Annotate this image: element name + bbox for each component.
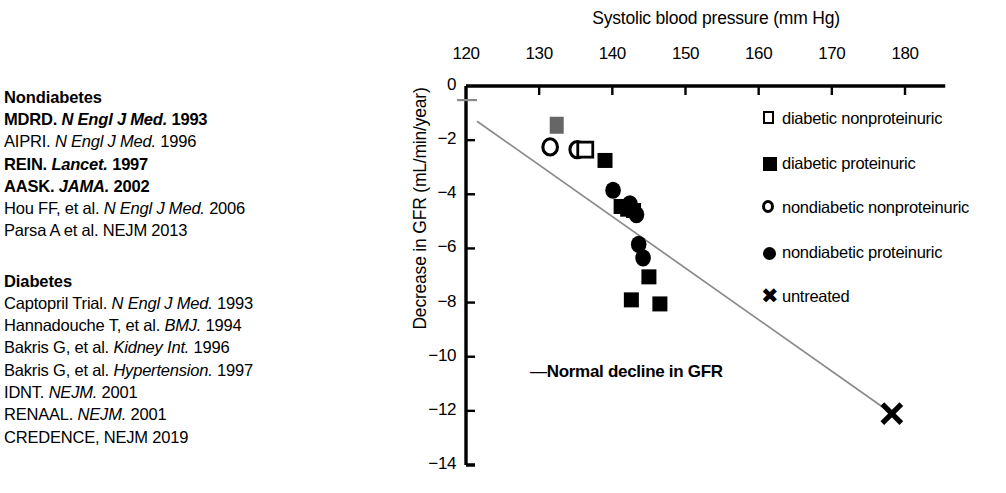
reference-entry: IDNT. NEJM. 2001	[4, 381, 376, 403]
data-point-filled-circle	[605, 182, 621, 199]
reference-entry: AASK. JAMA. 2002	[4, 175, 376, 197]
reference-entry-journal: N Engl J Med.	[104, 199, 205, 217]
reference-entry-journal: NEJM.	[49, 383, 98, 401]
reference-entry-name: AASK.	[4, 177, 59, 195]
reference-group: DiabetesCaptopril Trial. N Engl J Med. 1…	[4, 270, 376, 448]
legend-item[interactable]: ✖untreated	[760, 286, 1006, 331]
legend-marker-cross-icon: ✖	[760, 287, 782, 307]
reference-entry-name: AIPRI.	[4, 132, 55, 150]
reference-entry-name: Parsa A et al. NEJM 2013	[4, 221, 187, 239]
legend-marker-open-circle-icon	[760, 198, 782, 218]
data-point-open-square	[578, 142, 593, 157]
legend-item[interactable]: nondiabetic proteinuric	[760, 242, 1006, 287]
reference-entry-year: 2006	[205, 199, 245, 217]
reference-entry-year: 1997	[108, 155, 148, 173]
figure-root: NondiabetesMDRD. N Engl J Med. 1993AIPRI…	[0, 0, 1006, 493]
legend-label: untreated	[782, 286, 849, 306]
marker-glyph: ✖	[761, 288, 778, 305]
legend-marker-filled-square-icon	[760, 154, 782, 174]
chart-area: Systolic blood pressure (mm Hg) Decrease…	[376, 0, 1006, 493]
reference-entry: REIN. Lancet. 1997	[4, 153, 376, 175]
reference-group-heading: Diabetes	[4, 270, 376, 292]
reference-entry: RENAAL. NEJM. 2001	[4, 403, 376, 425]
data-point-filled-circle	[635, 249, 651, 266]
reference-entry-year: 2001	[97, 383, 137, 401]
reference-entry-journal: N Engl J Med.	[55, 132, 156, 150]
reference-entry-journal: N Engl J Med.	[61, 110, 167, 128]
data-point-open-circle	[543, 139, 558, 155]
legend-marker-filled-circle-icon	[760, 243, 782, 263]
legend-label: diabetic nonproteinuric	[782, 108, 942, 128]
data-point-filled-square	[641, 269, 656, 284]
marker-glyph	[763, 157, 777, 171]
reference-entry-year: 2001	[126, 405, 166, 423]
legend-label: diabetic proteinuric	[782, 153, 916, 173]
marker-glyph	[762, 200, 774, 213]
marker-glyph	[763, 111, 774, 124]
reference-entry-year: 2002	[109, 177, 149, 195]
data-point-filled-square	[598, 153, 613, 168]
reference-entry-name: MDRD.	[4, 110, 61, 128]
reference-entry-journal: Hypertension.	[113, 361, 212, 379]
reference-entry-name: Hou FF, et al.	[4, 199, 104, 217]
reference-entry-year: 1993	[167, 110, 207, 128]
reference-entry-journal: NEJM.	[78, 405, 127, 423]
reference-panel: NondiabetesMDRD. N Engl J Med. 1993AIPRI…	[4, 86, 376, 452]
legend-item[interactable]: diabetic nonproteinuric	[760, 108, 1006, 153]
reference-entry: Bakris G, et al. Kidney Int. 1996	[4, 336, 376, 358]
reference-group-heading: Nondiabetes	[4, 86, 376, 108]
reference-group-spacer	[4, 246, 376, 270]
reference-entry: Hannadouche T, et al. BMJ. 1994	[4, 314, 376, 336]
reference-entry: Captopril Trial. N Engl J Med. 1993	[4, 292, 376, 314]
reference-entry: Parsa A et al. NEJM 2013	[4, 219, 376, 241]
marker-glyph	[763, 247, 776, 260]
reference-entry-name: Hannadouche T, et al.	[4, 316, 164, 334]
normal-decline-annotation: —Normal decline in GFR	[530, 362, 723, 382]
reference-entry-name: Bakris G, et al.	[4, 338, 113, 356]
legend-item[interactable]: nondiabetic nonproteinuric	[760, 197, 1006, 242]
reference-group: NondiabetesMDRD. N Engl J Med. 1993AIPRI…	[4, 86, 376, 242]
chart-legend: diabetic nonproteinuricdiabetic proteinu…	[760, 108, 1006, 331]
reference-entry: Bakris G, et al. Hypertension. 1997	[4, 359, 376, 381]
reference-entry: MDRD. N Engl J Med. 1993	[4, 108, 376, 130]
reference-entry-name: Bakris G, et al.	[4, 361, 113, 379]
data-point-filled-square	[652, 296, 667, 311]
reference-entry-journal: BMJ.	[164, 316, 201, 334]
reference-entry-journal: JAMA.	[59, 177, 109, 195]
reference-entry-journal: N Engl J Med.	[112, 294, 213, 312]
reference-entry-year: 1994	[201, 316, 241, 334]
data-point-filled-circle	[629, 206, 645, 223]
legend-marker-open-square-icon	[760, 109, 782, 129]
legend-item[interactable]: diabetic proteinuric	[760, 153, 1006, 198]
legend-label: nondiabetic proteinuric	[782, 242, 942, 262]
reference-entry-name: CREDENCE, NEJM 2019	[4, 428, 188, 446]
data-point-filled-square	[624, 292, 639, 307]
reference-entry-year: 1997	[213, 361, 253, 379]
reference-entry-year: 1993	[213, 294, 253, 312]
reference-entry-name: REIN.	[4, 155, 51, 173]
legend-label: nondiabetic nonproteinuric	[782, 197, 969, 217]
reference-entry: Hou FF, et al. N Engl J Med. 2006	[4, 197, 376, 219]
annotation-text: Normal decline in GFR	[547, 362, 723, 381]
data-point-grey-square	[550, 117, 564, 134]
reference-entry-year: 1996	[189, 338, 229, 356]
reference-entry-year: 1996	[156, 132, 196, 150]
reference-entry-journal: Lancet.	[51, 155, 107, 173]
reference-entry-name: RENAAL.	[4, 405, 78, 423]
annotation-dash: —	[530, 362, 547, 381]
reference-entry-name: IDNT.	[4, 383, 49, 401]
reference-entry-name: Captopril Trial.	[4, 294, 112, 312]
data-point-cross	[882, 404, 901, 423]
reference-entry-journal: Kidney Int.	[113, 338, 189, 356]
reference-entry: CREDENCE, NEJM 2019	[4, 426, 376, 448]
reference-entry: AIPRI. N Engl J Med. 1996	[4, 130, 376, 152]
